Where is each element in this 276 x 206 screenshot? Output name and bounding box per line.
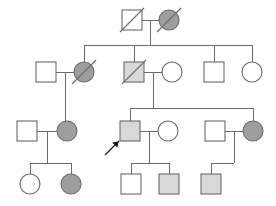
- sibship-bar-generation-ii: [84, 45, 252, 62]
- individual-ii-4[interactable]: [162, 62, 182, 82]
- individual-i-1[interactable]: [120, 8, 144, 32]
- sibship-bar-iv-left: [30, 163, 71, 174]
- mating-line-ii-3-ii-4: [144, 72, 162, 108]
- symbol-square-male[interactable]: [120, 121, 140, 141]
- symbol-square-male[interactable]: [17, 121, 37, 141]
- pedigree-canvas: [0, 0, 276, 206]
- mating-line-iii-3-iii-4: [140, 131, 158, 163]
- symbol-circle-female[interactable]: [162, 62, 182, 82]
- symbol-square-male[interactable]: [204, 62, 224, 82]
- mating-line-generation-i: [142, 20, 159, 45]
- symbol-circle-female[interactable]: [61, 174, 81, 194]
- individual-i-2[interactable]: [157, 8, 181, 32]
- individual-ii-3[interactable]: [122, 60, 146, 84]
- symbol-square-male[interactable]: [159, 174, 179, 194]
- sibship-line-iv-right: [211, 163, 234, 174]
- sibship-bar-generation-iii: [130, 108, 253, 121]
- individual-ii-2[interactable]: [72, 60, 96, 84]
- individual-ii-5[interactable]: [204, 62, 224, 82]
- symbol-square-male[interactable]: [201, 174, 221, 194]
- individual-iv-1[interactable]: [20, 174, 40, 194]
- individual-iii-5[interactable]: [205, 121, 225, 141]
- individual-ii-6[interactable]: [242, 62, 262, 82]
- mating-line-iii-1-iii-2: [37, 131, 57, 163]
- symbol-circle-female[interactable]: [242, 62, 262, 82]
- proband-arrow-icon: [105, 141, 119, 155]
- individual-iii-4[interactable]: [158, 121, 178, 141]
- individual-iii-1[interactable]: [17, 121, 37, 141]
- sibship-bar-iv-middle: [131, 163, 169, 174]
- individual-iv-4[interactable]: [159, 174, 179, 194]
- individual-iv-3[interactable]: [121, 174, 141, 194]
- individual-iv-5[interactable]: [201, 174, 221, 194]
- symbol-circle-female[interactable]: [243, 121, 263, 141]
- mating-line-iii-5-iii-6: [225, 131, 243, 163]
- symbol-circle-female[interactable]: [57, 121, 77, 141]
- symbol-square-male[interactable]: [36, 62, 56, 82]
- individual-iv-2[interactable]: [61, 174, 81, 194]
- pedigree-chart: [0, 0, 276, 206]
- individual-iii-3-proband[interactable]: [120, 121, 140, 141]
- individual-iii-2[interactable]: [57, 121, 77, 141]
- symbol-square-male[interactable]: [121, 174, 141, 194]
- individual-ii-1[interactable]: [36, 62, 56, 82]
- symbol-circle-female[interactable]: [158, 121, 178, 141]
- individual-iii-6[interactable]: [243, 121, 263, 141]
- symbol-circle-female[interactable]: [20, 174, 40, 194]
- symbol-square-male[interactable]: [205, 121, 225, 141]
